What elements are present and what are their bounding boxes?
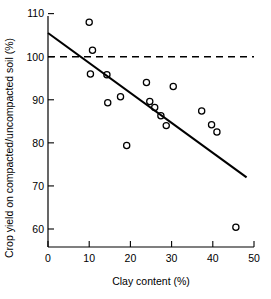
data-point-marker <box>214 129 220 135</box>
x-axis-ticks: 01020304050 <box>45 241 260 264</box>
data-point-marker <box>147 98 153 104</box>
scatter-plot-svg: 60708090100110 01020304050 Clay content … <box>0 0 271 299</box>
y-tick-label: 100 <box>26 51 44 63</box>
data-point-marker <box>199 108 205 114</box>
data-point-marker <box>89 47 95 53</box>
trend-lines <box>48 33 247 177</box>
data-point-marker <box>143 79 149 85</box>
data-point-marker <box>105 100 111 106</box>
y-axis-ticks: 60708090100110 <box>26 7 54 234</box>
data-point-marker <box>233 224 239 230</box>
x-tick-label: 10 <box>83 252 95 264</box>
regression-line <box>48 33 247 177</box>
y-tick-label: 110 <box>27 7 44 19</box>
x-tick-label: 50 <box>248 252 260 264</box>
y-axis-title: Crop yield on compacted/uncompacted soil… <box>3 38 15 258</box>
y-tick-label: 60 <box>32 223 44 235</box>
x-tick-label: 30 <box>166 252 178 264</box>
data-point-marker <box>86 19 92 25</box>
x-tick-label: 0 <box>45 252 51 264</box>
data-point-marker <box>87 71 93 77</box>
plot-axes <box>48 16 254 247</box>
y-tick-label: 70 <box>32 180 44 192</box>
x-axis-title: Clay content (%) <box>112 275 190 287</box>
data-points <box>86 19 239 230</box>
data-point-marker <box>163 123 169 129</box>
data-point-marker <box>117 94 123 100</box>
data-point-marker <box>124 142 130 148</box>
y-tick-label: 80 <box>32 137 44 149</box>
x-tick-label: 20 <box>125 252 137 264</box>
chart-figure: 60708090100110 01020304050 Clay content … <box>0 0 271 299</box>
data-point-marker <box>208 122 214 128</box>
x-tick-label: 40 <box>207 252 219 264</box>
y-tick-label: 90 <box>32 94 44 106</box>
data-point-marker <box>170 83 176 89</box>
